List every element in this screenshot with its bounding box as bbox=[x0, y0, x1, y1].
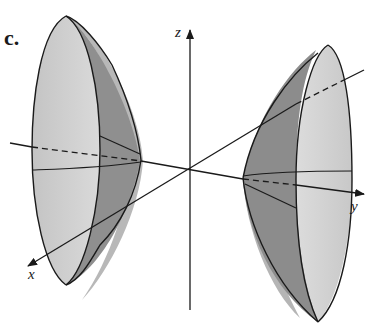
x-axis-label: x bbox=[28, 266, 35, 283]
y-axis-label: y bbox=[351, 198, 358, 215]
hyperboloid-diagram bbox=[0, 0, 382, 329]
part-label: c. bbox=[4, 25, 19, 51]
hyperboloid-figure: c. z y x bbox=[0, 0, 382, 329]
left-sheet bbox=[32, 16, 143, 300]
right-sheet bbox=[243, 45, 352, 322]
z-axis-label: z bbox=[175, 24, 181, 41]
